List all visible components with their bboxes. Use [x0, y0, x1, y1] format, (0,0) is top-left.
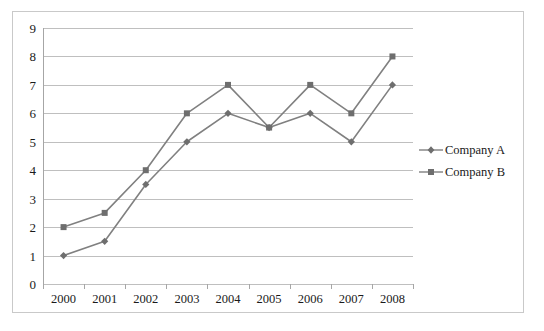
- x-axis-tick: [290, 284, 291, 289]
- x-axis-tick: [249, 284, 250, 289]
- plot-area: 0123456789 20002001200220032004200520062…: [43, 28, 413, 284]
- x-axis-tick: [372, 284, 373, 289]
- data-point-square-marker: [61, 224, 67, 230]
- x-axis-tick: [84, 284, 85, 289]
- legend-entry-company-b: Company B: [418, 161, 510, 183]
- data-point-square-marker: [266, 125, 272, 131]
- legend-label-company-a: Company A: [445, 144, 505, 157]
- x-axis-tick: [43, 284, 44, 289]
- series-company-b: [61, 53, 396, 230]
- y-axis-tick-label: 8: [30, 50, 37, 63]
- x-axis-tick-label: 2005: [257, 293, 282, 306]
- x-axis-tick-label: 2000: [51, 293, 76, 306]
- x-axis-tick: [331, 284, 332, 289]
- x-axis-tick-label: 2003: [174, 293, 199, 306]
- x-axis-tick-label: 2006: [298, 293, 323, 306]
- gridline: [43, 284, 413, 285]
- y-axis-tick-label: 4: [30, 164, 37, 177]
- x-axis-tick-label: 2007: [339, 293, 364, 306]
- series-plot: [43, 28, 413, 284]
- x-axis-tick-label: 2002: [133, 293, 158, 306]
- data-point-square-marker: [184, 110, 190, 116]
- data-point-square-marker: [143, 167, 149, 173]
- data-point-diamond-marker: [60, 252, 67, 259]
- y-axis-tick-label: 5: [30, 135, 37, 148]
- data-point-square-marker: [348, 110, 354, 116]
- data-point-square-marker: [389, 53, 395, 59]
- x-axis-tick-label: 2004: [216, 293, 241, 306]
- x-axis-tick: [413, 284, 414, 289]
- data-point-square-marker: [102, 210, 108, 216]
- legend-entry-company-a: Company A: [418, 139, 510, 161]
- y-axis-tick-label: 7: [30, 78, 37, 91]
- y-axis-tick-label: 0: [30, 278, 37, 291]
- y-axis-tick-label: 2: [30, 221, 37, 234]
- y-axis-tick-label: 3: [30, 192, 37, 205]
- line-chart-figure: 0123456789 20002001200220032004200520062…: [0, 0, 544, 331]
- legend-marker-diamond-icon: [418, 143, 444, 157]
- y-axis-tick-label: 1: [30, 249, 37, 262]
- series-company-a: [60, 81, 396, 259]
- x-axis-tick: [125, 284, 126, 289]
- y-axis-tick-label: 6: [30, 107, 37, 120]
- legend-marker-square-icon: [418, 165, 444, 179]
- x-axis-tick-label: 2008: [380, 293, 405, 306]
- data-point-square-marker: [307, 82, 313, 88]
- chart-legend: Company A Company B: [418, 139, 510, 183]
- x-axis-tick: [166, 284, 167, 289]
- x-axis-tick: [207, 284, 208, 289]
- y-axis-tick-label: 9: [30, 22, 37, 35]
- legend-label-company-b: Company B: [445, 166, 505, 179]
- x-axis-tick-label: 2001: [92, 293, 117, 306]
- data-point-square-marker: [225, 82, 231, 88]
